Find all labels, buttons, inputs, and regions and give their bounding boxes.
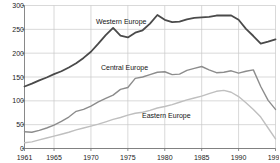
x-tick-label: 1975 [116, 154, 140, 161]
chart-container: 050100150200250300 196119651970197519801… [0, 0, 279, 163]
x-tick-label: 1990 [227, 154, 251, 161]
series-label-western-europe: Western Europe [96, 18, 146, 25]
x-tick-label: 1985 [190, 154, 214, 161]
x-tick-label: 1961 [13, 154, 37, 161]
series-label-eastern-europe: Eastern Europe [142, 112, 191, 119]
x-tick-label: 1970 [79, 154, 103, 161]
x-tick-label: 1995 [264, 154, 280, 161]
series-label-central-europe: Central Europe [101, 64, 148, 71]
x-tick-label: 1980 [153, 154, 177, 161]
x-tick-label: 1965 [42, 154, 66, 161]
